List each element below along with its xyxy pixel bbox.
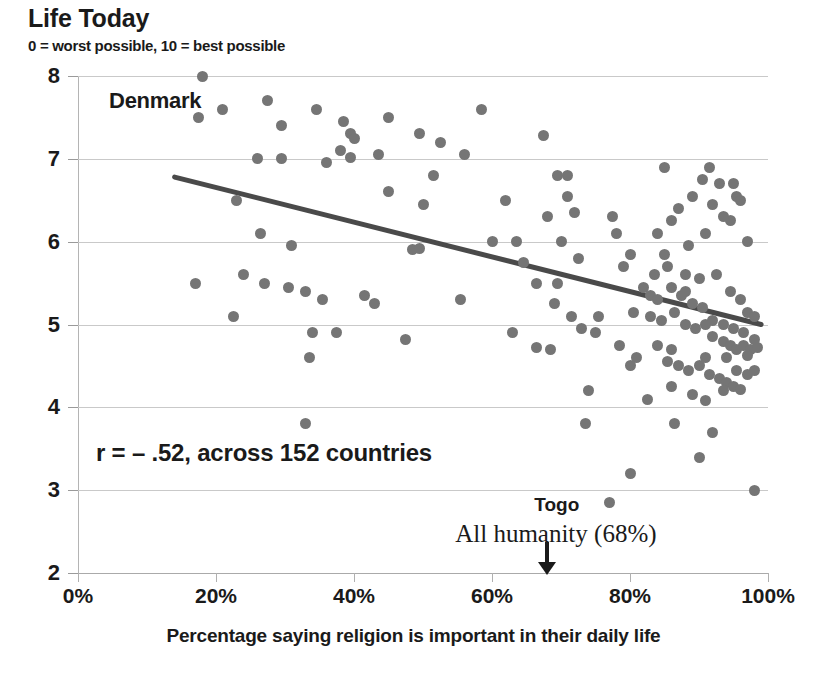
scatter-point bbox=[604, 497, 615, 508]
scatter-point bbox=[531, 278, 542, 289]
scatter-point bbox=[359, 290, 370, 301]
scatter-point bbox=[749, 365, 760, 376]
scatter-point bbox=[625, 249, 636, 260]
scatter-point bbox=[659, 162, 670, 173]
scatter-point bbox=[680, 269, 691, 280]
scatter-point bbox=[687, 191, 698, 202]
scatter-point bbox=[283, 282, 294, 293]
annotation-correlation: r = – .52, across 152 countries bbox=[96, 441, 432, 465]
scatter-point bbox=[687, 298, 698, 309]
scatter-point bbox=[304, 352, 315, 363]
scatter-point bbox=[656, 315, 667, 326]
scatter-point bbox=[549, 298, 560, 309]
scatter-point bbox=[680, 319, 691, 330]
scatter-point bbox=[659, 249, 670, 260]
scatter-point bbox=[552, 170, 563, 181]
scatter-point bbox=[545, 344, 556, 355]
scatter-point bbox=[383, 112, 394, 123]
scatter-point bbox=[666, 282, 677, 293]
scatter-point bbox=[711, 269, 722, 280]
scatter-point bbox=[542, 211, 553, 222]
scatter-point bbox=[628, 307, 639, 318]
annotation-togo: Togo bbox=[534, 495, 579, 514]
scatter-point bbox=[566, 311, 577, 322]
scatter-point bbox=[217, 104, 228, 115]
scatter-point bbox=[731, 365, 742, 376]
scatter-point bbox=[476, 104, 487, 115]
scatter-point bbox=[666, 381, 677, 392]
scatter-point bbox=[349, 133, 360, 144]
scatter-point bbox=[573, 253, 584, 264]
scatter-point bbox=[718, 319, 729, 330]
scatter-point bbox=[718, 211, 729, 222]
scatter-point bbox=[645, 311, 656, 322]
scatter-point bbox=[625, 360, 636, 371]
chart-canvas: Life Today 0 = worst possible, 10 = best… bbox=[0, 0, 827, 683]
scatter-point bbox=[749, 311, 760, 322]
scatter-point bbox=[197, 71, 208, 82]
scatter-point bbox=[562, 191, 573, 202]
scatter-point bbox=[190, 278, 201, 289]
scatter-point bbox=[618, 261, 629, 272]
scatter-point bbox=[680, 286, 691, 297]
scatter-point bbox=[556, 236, 567, 247]
scatter-point bbox=[418, 199, 429, 210]
scatter-point bbox=[704, 369, 715, 380]
scatter-point bbox=[487, 236, 498, 247]
scatter-point bbox=[669, 307, 680, 318]
scatter-point bbox=[614, 340, 625, 351]
scatter-point bbox=[311, 104, 322, 115]
scatter-point bbox=[694, 452, 705, 463]
scatter-point bbox=[611, 228, 622, 239]
scatter-point bbox=[345, 152, 356, 163]
scatter-point bbox=[459, 149, 470, 160]
scatter-point bbox=[718, 385, 729, 396]
x-axis-title: Percentage saying religion is important … bbox=[0, 625, 827, 647]
scatter-point bbox=[666, 344, 677, 355]
scatter-point bbox=[735, 294, 746, 305]
scatter-point bbox=[300, 286, 311, 297]
scatter-point bbox=[580, 418, 591, 429]
scatter-point bbox=[500, 195, 511, 206]
scatter-point bbox=[373, 149, 384, 160]
scatter-point bbox=[735, 195, 746, 206]
scatter-point bbox=[518, 257, 529, 268]
scatter-point bbox=[687, 389, 698, 400]
scatter-point bbox=[673, 203, 684, 214]
scatter-point bbox=[725, 286, 736, 297]
down-arrow-icon bbox=[534, 542, 558, 576]
scatter-point bbox=[683, 365, 694, 376]
annotation-denmark: Denmark bbox=[109, 90, 201, 112]
scatter-point bbox=[428, 170, 439, 181]
scatter-point bbox=[259, 278, 270, 289]
scatter-point bbox=[435, 137, 446, 148]
scatter-point bbox=[649, 269, 660, 280]
scatter-point bbox=[735, 384, 746, 395]
scatter-point bbox=[749, 485, 760, 496]
scatter-point bbox=[552, 278, 563, 289]
scatter-point bbox=[642, 394, 653, 405]
scatter-point bbox=[707, 427, 718, 438]
scatter-point bbox=[625, 468, 636, 479]
scatter-point bbox=[749, 334, 760, 345]
scatter-point bbox=[228, 311, 239, 322]
scatter-point bbox=[652, 340, 663, 351]
scatter-point bbox=[652, 228, 663, 239]
scatter-point bbox=[694, 273, 705, 284]
scatter-point bbox=[335, 145, 346, 156]
scatter-point bbox=[231, 195, 242, 206]
scatter-point bbox=[697, 174, 708, 185]
scatter-point bbox=[414, 243, 425, 254]
scatter-point bbox=[704, 162, 715, 173]
scatter-point bbox=[511, 236, 522, 247]
scatter-point bbox=[742, 236, 753, 247]
